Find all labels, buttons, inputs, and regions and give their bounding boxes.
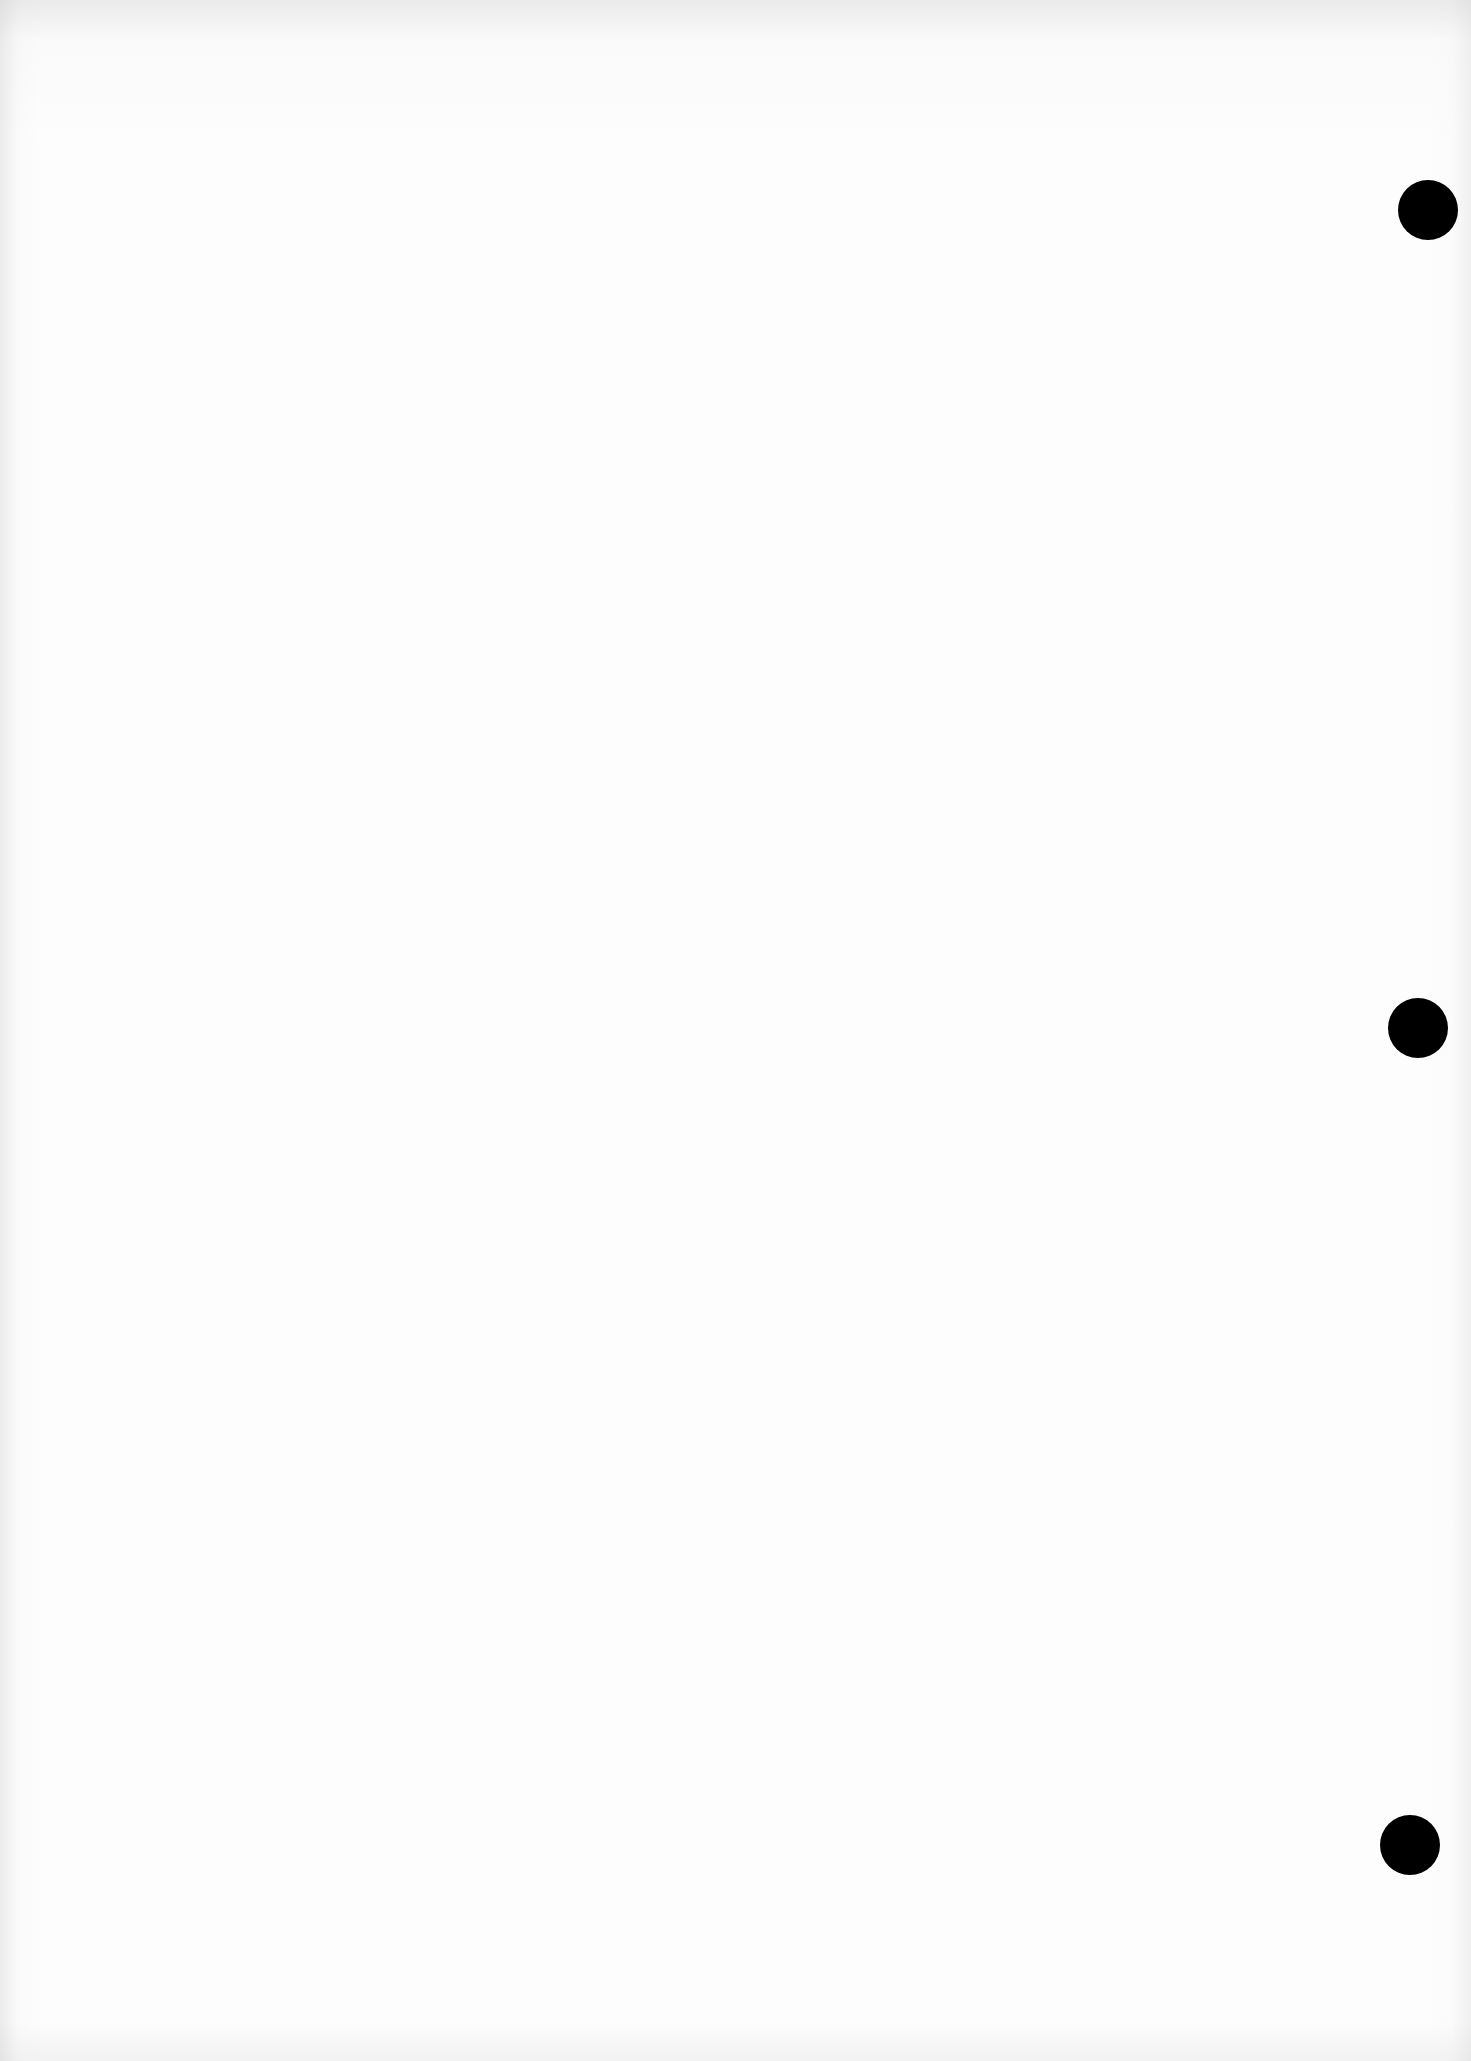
blank-scanned-page [0, 0, 1471, 2061]
punch-hole-middle [1388, 998, 1448, 1058]
punch-hole-top [1398, 180, 1458, 240]
punch-hole-bottom [1380, 1815, 1440, 1875]
